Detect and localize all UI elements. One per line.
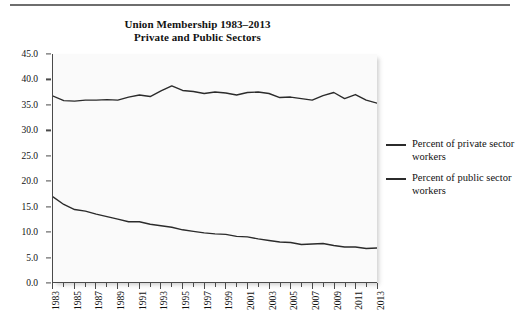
x-tick-mark — [258, 283, 259, 287]
x-tick-mark — [225, 283, 226, 289]
y-tick-label: 20.0 — [21, 176, 38, 186]
top-divider-rule — [10, 4, 510, 6]
legend-line-swatch — [386, 144, 406, 146]
chart-title: Union Membership 1983–2013 Private and P… — [0, 18, 395, 44]
x-tick-mark — [280, 283, 281, 287]
x-tick-label: 2005 — [289, 291, 299, 310]
x-tick-label: 1991 — [138, 291, 148, 310]
x-tick-mark — [106, 283, 107, 287]
x-tick-label: 2007 — [311, 291, 321, 310]
legend-label: Percent of public sector workers — [412, 172, 516, 197]
legend-entry: Percent of public sector workers — [386, 172, 519, 197]
x-tick-mark — [323, 283, 324, 287]
y-tick-label: 45.0 — [21, 49, 38, 59]
x-tick-mark — [171, 283, 172, 287]
x-tick-mark — [117, 283, 118, 289]
x-axis: 1983198519871989199119931995199719992001… — [52, 283, 377, 336]
x-tick-label: 1999 — [224, 291, 234, 310]
chart-figure: Union Membership 1983–2013 Private and P… — [0, 0, 519, 336]
x-tick-mark — [95, 283, 96, 289]
y-tick-mark — [46, 181, 51, 182]
y-tick-label: 25.0 — [21, 151, 38, 161]
y-tick-label: 0.0 — [26, 278, 38, 288]
x-tick-mark — [63, 283, 64, 287]
x-tick-label: 1995 — [181, 291, 191, 310]
x-tick-label: 1985 — [73, 291, 83, 310]
x-tick-mark — [215, 283, 216, 287]
y-tick-label: 10.0 — [21, 227, 38, 237]
y-tick-mark — [46, 53, 51, 54]
x-tick-mark — [247, 283, 248, 289]
legend-entry: Percent of private sector workers — [386, 138, 519, 163]
y-axis: 0.05.010.015.020.025.030.035.040.045.0 — [0, 54, 46, 283]
y-tick-label: 5.0 — [26, 253, 38, 263]
x-tick-mark — [269, 283, 270, 289]
x-tick-mark — [74, 283, 75, 289]
x-tick-mark — [128, 283, 129, 287]
legend-line-swatch — [386, 178, 406, 180]
x-tick-label: 2003 — [268, 291, 278, 310]
x-tick-mark — [301, 283, 302, 287]
x-tick-label: 1993 — [159, 291, 169, 310]
y-tick-mark — [46, 130, 51, 131]
y-tick-mark — [46, 104, 51, 105]
y-tick-mark — [46, 206, 51, 207]
x-tick-mark — [366, 283, 367, 287]
x-tick-mark — [236, 283, 237, 287]
x-tick-mark — [139, 283, 140, 289]
chart-legend: Percent of private sector workersPercent… — [386, 138, 519, 206]
plot-lines — [53, 54, 377, 282]
y-tick-label: 40.0 — [21, 74, 38, 84]
line-private-sector — [53, 197, 377, 249]
x-tick-label: 1987 — [94, 291, 104, 310]
x-tick-mark — [150, 283, 151, 287]
y-tick-mark — [46, 257, 51, 258]
chart-title-line-1: Union Membership 1983–2013 — [0, 18, 395, 31]
x-tick-mark — [355, 283, 356, 289]
x-tick-mark — [160, 283, 161, 289]
y-tick-mark — [46, 79, 51, 80]
x-tick-label: 1983 — [51, 291, 61, 310]
legend-label: Percent of private sector workers — [412, 138, 516, 163]
x-tick-mark — [377, 283, 378, 289]
x-tick-label: 1997 — [203, 291, 213, 310]
chart-title-line-2: Private and Public Sectors — [0, 31, 395, 44]
x-tick-mark — [345, 283, 346, 287]
y-tick-label: 30.0 — [21, 125, 38, 135]
x-tick-mark — [85, 283, 86, 287]
x-tick-mark — [182, 283, 183, 289]
line-public-sector — [53, 86, 377, 103]
x-tick-mark — [193, 283, 194, 287]
x-tick-mark — [52, 283, 53, 289]
x-tick-mark — [334, 283, 335, 289]
y-tick-label: 35.0 — [21, 100, 38, 110]
x-tick-mark — [290, 283, 291, 289]
y-tick-mark — [46, 155, 51, 156]
x-tick-mark — [204, 283, 205, 289]
x-tick-label: 2009 — [333, 291, 343, 310]
x-tick-label: 2011 — [354, 291, 364, 310]
x-tick-label: 2013 — [376, 291, 386, 310]
x-tick-mark — [312, 283, 313, 289]
y-tick-label: 15.0 — [21, 202, 38, 212]
x-tick-label: 1989 — [116, 291, 126, 310]
x-tick-label: 2001 — [246, 291, 256, 310]
plot-area — [52, 54, 377, 283]
y-tick-mark — [46, 282, 51, 283]
y-tick-mark — [46, 232, 51, 233]
